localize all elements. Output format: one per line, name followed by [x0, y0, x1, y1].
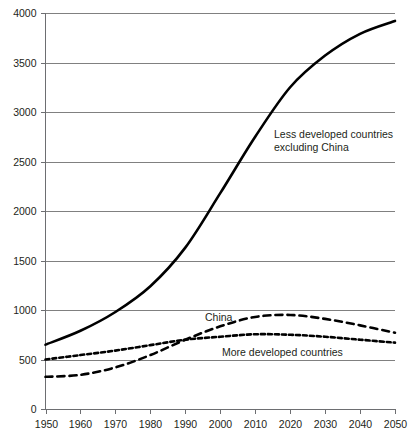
x-tick-label-2000: 2000	[209, 418, 233, 430]
x-tick-label-2020: 2020	[279, 418, 303, 430]
annotation-less-developed-line2: excluding China	[274, 141, 349, 153]
chart-canvas: 05001000150020002500300035004000 1950196…	[0, 0, 408, 440]
x-tick-label-2010: 2010	[244, 418, 268, 430]
annotation-china: China	[205, 311, 233, 323]
y-tick-label-2000: 2000	[13, 205, 37, 217]
y-tick-label-0: 0	[31, 403, 37, 415]
x-tick-label-1990: 1990	[174, 418, 198, 430]
x-tick-label-2050: 2050	[384, 418, 408, 430]
y-tick-label-3500: 3500	[13, 57, 37, 69]
annotation-more-developed: More developed countries	[222, 346, 343, 358]
y-tick-label-2500: 2500	[13, 156, 37, 168]
x-tick-label-1960: 1960	[69, 418, 93, 430]
y-tick-label-4000: 4000	[13, 7, 37, 19]
y-tick-label-1000: 1000	[13, 304, 37, 316]
x-tick-label-1970: 1970	[104, 418, 128, 430]
x-tick-label-2040: 2040	[349, 418, 373, 430]
x-axis-tick-labels: 1950196019701980199020002010202020302040…	[35, 418, 408, 430]
x-tick-label-1980: 1980	[139, 418, 163, 430]
y-tick-label-3000: 3000	[13, 106, 37, 118]
y-tick-label-1500: 1500	[13, 255, 37, 267]
y-tick-label-500: 500	[19, 354, 37, 366]
x-tick-label-1950: 1950	[35, 418, 59, 430]
annotation-less-developed-line1: Less developed countries	[274, 128, 393, 140]
x-tick-label-2030: 2030	[314, 418, 338, 430]
population-line-chart: 05001000150020002500300035004000 1950196…	[0, 0, 408, 440]
